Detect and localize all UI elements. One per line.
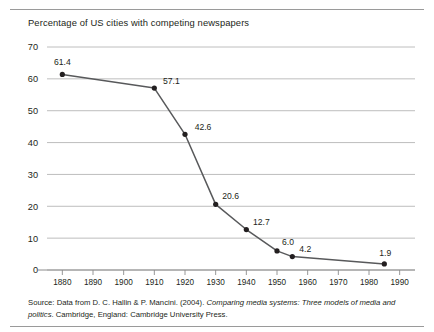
y-axis-tick-label: 60 (28, 74, 38, 84)
data-point-label: 61.4 (54, 57, 71, 67)
y-axis-tick-label: 10 (28, 234, 38, 244)
x-axis-tick-label: 1910 (145, 278, 164, 287)
x-axis-tick-label: 1900 (115, 278, 134, 287)
x-axis-tick-label: 1920 (176, 278, 195, 287)
source-note: Source: Data from D. C. Hallin & P. Manc… (28, 297, 418, 320)
data-point-label: 20.6 (222, 191, 239, 201)
y-axis-tick-label: 50 (28, 106, 38, 116)
x-axis-tick-label: 1940 (237, 278, 256, 287)
y-axis-tick-label: 40 (28, 138, 38, 148)
data-point-marker (213, 202, 218, 207)
x-axis-tick-label: 1890 (84, 278, 103, 287)
x-axis-tick-label: 1960 (299, 278, 318, 287)
data-point-marker (274, 248, 279, 253)
line-chart: 0102030405060701880189019001910192019301… (0, 0, 434, 300)
x-axis-tick-label: 1990 (391, 278, 410, 287)
data-point-marker (290, 254, 295, 259)
x-axis-tick-label: 1950 (268, 278, 287, 287)
figure-container: Percentage of US cities with competing n… (0, 0, 434, 332)
data-point-marker (182, 132, 187, 137)
x-axis-tick-label: 1880 (53, 278, 72, 287)
source-suffix: . Cambridge, England: Cambridge Universi… (52, 310, 228, 319)
data-point-marker (152, 85, 157, 90)
data-point-label: 6.0 (282, 237, 294, 247)
data-point-label: 42.6 (195, 122, 212, 132)
x-axis-tick-label: 1970 (329, 278, 348, 287)
data-point-label: 4.2 (299, 244, 311, 254)
data-point-label: 12.7 (253, 217, 270, 227)
data-point-marker (382, 261, 387, 266)
data-point-label: 1.9 (379, 248, 391, 258)
data-point-marker (244, 227, 249, 232)
y-axis-tick-label: 20 (28, 202, 38, 212)
data-point-label: 57.1 (163, 76, 180, 86)
y-axis-tick-label: 0 (33, 265, 38, 275)
data-line (62, 74, 384, 264)
bottom-divider-rule (10, 326, 424, 327)
y-axis-tick-label: 70 (28, 42, 38, 52)
y-axis-tick-label: 30 (28, 170, 38, 180)
source-prefix: Source: Data from D. C. Hallin & P. Manc… (28, 298, 206, 307)
x-axis-tick-label: 1930 (207, 278, 226, 287)
data-point-marker (60, 72, 65, 77)
x-axis-tick-label: 1980 (360, 278, 379, 287)
